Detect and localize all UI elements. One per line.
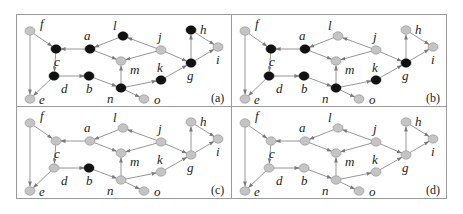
edge-g-i: [195, 141, 214, 152]
node-n-active: [116, 84, 126, 92]
node-label-a: a: [84, 28, 91, 43]
node-m-inactive: [331, 149, 341, 157]
edge-f-c: [248, 125, 267, 138]
node-j-inactive: [371, 46, 381, 54]
node-j-inactive: [371, 138, 381, 146]
node-label-k: k: [372, 60, 378, 75]
node-b-active: [299, 72, 309, 80]
node-label-j: j: [156, 29, 162, 44]
edge-l-a: [94, 130, 119, 140]
node-label-i: i: [216, 52, 220, 67]
node-label-l: l: [113, 18, 117, 33]
node-label-n: n: [107, 91, 114, 106]
node-label-l: l: [328, 110, 332, 125]
node-e-inactive: [25, 187, 35, 195]
node-g-active: [186, 59, 196, 67]
edge-j-m: [341, 51, 372, 60]
node-i-inactive: [213, 135, 223, 143]
node-label-d: d: [61, 173, 68, 188]
node-c-inactive: [51, 137, 61, 145]
node-l-inactive: [118, 124, 128, 132]
panel-d: fcaljhimgdbkneo(d): [232, 107, 447, 200]
node-e-inactive: [240, 187, 250, 195]
figure-canvas: fcaljhimgdbkneo(a)fcaljhimgdbkneo(b)fcal…: [0, 0, 463, 214]
edge-f-c: [33, 125, 52, 138]
edge-b-n: [93, 77, 117, 86]
node-label-l: l: [328, 18, 332, 33]
edge-b-n: [308, 169, 332, 178]
edge-j-g: [380, 144, 402, 153]
edge-g-i: [410, 141, 429, 152]
node-label-a: a: [299, 120, 306, 135]
edge-a-m: [309, 51, 332, 60]
edge-k-g: [380, 65, 402, 78]
edge-j-l: [342, 38, 372, 49]
node-label-h: h: [415, 22, 422, 37]
node-label-a: a: [84, 120, 91, 135]
edge-j-l: [342, 130, 372, 141]
edge-k-g: [165, 65, 187, 78]
node-label-i: i: [431, 144, 435, 159]
edge-g-i: [195, 49, 214, 60]
node-label-j: j: [371, 29, 377, 44]
panel-label: (a): [211, 91, 224, 105]
node-c-inactive: [266, 137, 276, 145]
graph-figure: fcaljhimgdbkneo(a)fcaljhimgdbkneo(b)fcal…: [0, 0, 463, 214]
node-label-d: d: [276, 173, 283, 188]
panel-c: fcaljhimgdbkneo(c): [17, 107, 232, 200]
node-label-d: d: [61, 81, 68, 96]
node-label-k: k: [157, 152, 163, 167]
edge-n-o: [125, 90, 140, 97]
node-n-active: [331, 84, 341, 92]
node-g-inactive: [401, 151, 411, 159]
node-b-active: [84, 72, 94, 80]
node-label-i: i: [216, 144, 220, 159]
node-o-inactive: [139, 187, 149, 195]
node-label-o: o: [154, 184, 161, 199]
node-f-inactive: [240, 119, 250, 127]
node-label-a: a: [299, 28, 306, 43]
node-label-j: j: [371, 121, 377, 136]
edge-l-a: [94, 38, 119, 48]
panel-b: fcaljhimgdbkneo(b): [232, 15, 447, 108]
node-e-inactive: [25, 95, 35, 103]
node-label-j: j: [156, 121, 162, 136]
node-o-inactive: [354, 187, 364, 195]
node-label-e: e: [254, 92, 260, 107]
node-h-inactive: [401, 26, 411, 34]
node-d-inactive: [49, 164, 59, 172]
edge-j-l: [127, 38, 157, 49]
node-d-active: [264, 72, 274, 80]
node-label-c: c: [269, 146, 275, 161]
node-a-active: [300, 45, 310, 53]
node-label-g: g: [187, 68, 194, 83]
edge-n-k: [340, 173, 371, 179]
node-i-inactive: [213, 43, 223, 51]
node-k-inactive: [156, 168, 166, 176]
edge-a-m: [94, 143, 117, 152]
node-h-active: [186, 26, 196, 34]
edge-j-g: [165, 52, 187, 61]
node-g-inactive: [186, 151, 196, 159]
node-label-n: n: [322, 91, 329, 106]
node-n-inactive: [116, 176, 126, 184]
node-label-d: d: [276, 81, 283, 96]
node-label-o: o: [369, 92, 376, 107]
edge-n-k: [340, 81, 371, 87]
node-label-o: o: [369, 184, 376, 199]
edge-j-m: [126, 51, 157, 60]
node-b-inactive: [299, 164, 309, 172]
edge-n-k: [125, 81, 156, 87]
node-i-inactive: [428, 135, 438, 143]
panels-layer: fcaljhimgdbkneo(a)fcaljhimgdbkneo(b)fcal…: [17, 15, 447, 200]
edge-j-l: [127, 130, 157, 141]
node-a-active: [85, 45, 95, 53]
node-label-g: g: [402, 160, 409, 175]
node-label-m: m: [130, 62, 139, 77]
node-label-b: b: [86, 81, 93, 96]
node-m-inactive: [116, 57, 126, 65]
node-o-inactive: [139, 95, 149, 103]
node-c-active: [51, 45, 61, 53]
panel-label: (c): [211, 183, 224, 197]
node-j-inactive: [156, 138, 166, 146]
